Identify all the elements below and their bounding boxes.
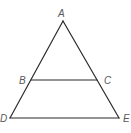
diagram-svg: A B C D E xyxy=(0,0,131,133)
label-E: E xyxy=(123,113,130,124)
label-A: A xyxy=(57,8,65,19)
label-B: B xyxy=(19,75,26,86)
segment-AD xyxy=(10,21,63,118)
label-D: D xyxy=(0,113,7,124)
label-C: C xyxy=(104,75,112,86)
triangle-diagram: A B C D E xyxy=(0,0,131,133)
segment-AE xyxy=(63,21,119,118)
